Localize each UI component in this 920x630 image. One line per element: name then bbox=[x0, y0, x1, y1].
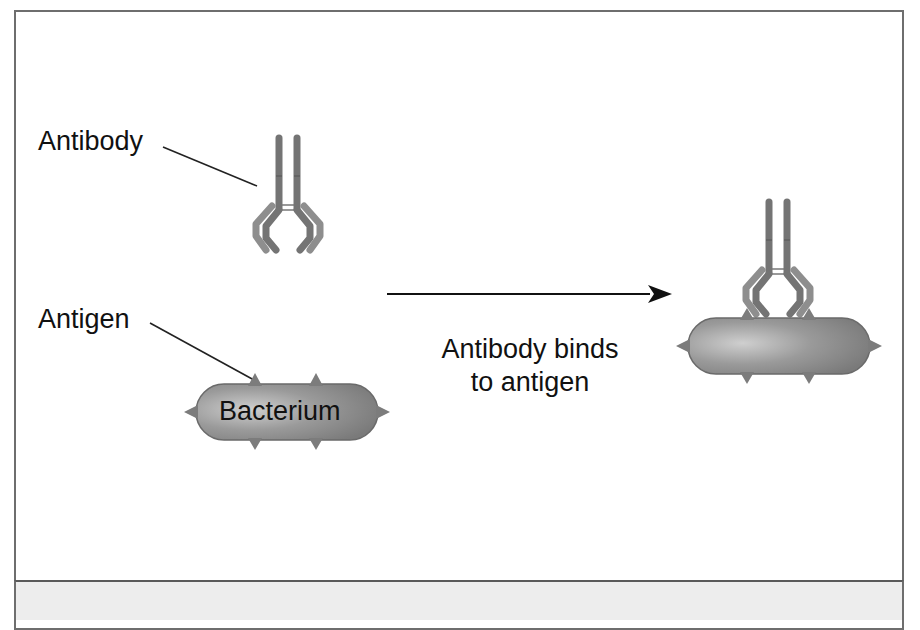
bacterium-label: Bacterium bbox=[219, 398, 341, 425]
process-label-line1: Antibody binds bbox=[410, 333, 650, 366]
antibody-leader-line bbox=[163, 147, 257, 186]
antibody-bound-icon bbox=[746, 202, 810, 314]
antibody-label: Antibody bbox=[38, 128, 143, 155]
process-arrow-icon bbox=[387, 285, 672, 303]
bacterium-bound-icon bbox=[676, 308, 882, 384]
process-label-line2: to antigen bbox=[410, 366, 650, 399]
process-label: Antibody binds to antigen bbox=[410, 333, 650, 399]
antibody-free-icon bbox=[256, 138, 320, 250]
antigen-label: Antigen bbox=[38, 306, 130, 333]
antigen-leader-line bbox=[150, 323, 254, 380]
